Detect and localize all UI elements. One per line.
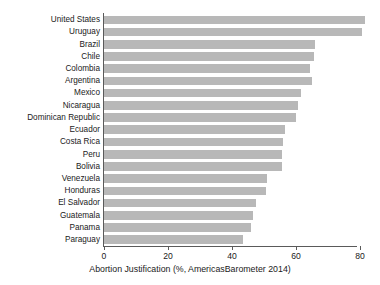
category-label: Bolivia	[76, 161, 100, 172]
bar-row: Panama	[104, 222, 360, 234]
category-label: Guatemala	[60, 210, 100, 221]
bar-row: Bolivia	[104, 161, 360, 173]
bar	[104, 162, 282, 171]
x-axis-tick	[232, 246, 233, 250]
bar	[104, 125, 285, 134]
bar	[104, 150, 282, 159]
category-label: Honduras	[64, 185, 100, 196]
bar-row: Paraguay	[104, 234, 360, 246]
category-label: Uruguay	[69, 26, 100, 37]
category-label: Nicaragua	[63, 100, 100, 111]
bar	[104, 101, 298, 110]
bar-chart: United StatesUruguayBrazilChileColombiaA…	[0, 0, 380, 285]
category-label: Brazil	[80, 39, 100, 50]
category-label: El Salvador	[58, 197, 100, 208]
bar-row: Honduras	[104, 185, 360, 197]
bar	[104, 138, 283, 147]
x-axis-tick	[104, 246, 105, 250]
bar	[104, 52, 314, 61]
x-axis-tick-label: 60	[276, 251, 316, 261]
x-axis-tick	[360, 246, 361, 250]
x-axis-tick-label: 20	[148, 251, 188, 261]
category-label: Dominican Republic	[27, 112, 100, 123]
category-label: Colombia	[65, 63, 100, 74]
bar-row: Argentina	[104, 75, 360, 87]
category-label: Mexico	[74, 87, 100, 98]
bar	[104, 223, 251, 232]
bar-row: United States	[104, 14, 360, 26]
x-axis-tick	[168, 246, 169, 250]
x-axis-tick	[296, 246, 297, 250]
bar	[104, 199, 256, 208]
bar	[104, 211, 253, 220]
category-label: Ecuador	[70, 124, 101, 135]
plot-area: United StatesUruguayBrazilChileColombiaA…	[104, 14, 360, 246]
category-label: Venezuela	[62, 173, 100, 184]
category-label: Panama	[70, 222, 101, 233]
bar-row: Nicaragua	[104, 99, 360, 111]
category-label: Chile	[81, 51, 100, 62]
x-axis-tick-label: 0	[84, 251, 124, 261]
bar-row: Chile	[104, 51, 360, 63]
category-label: Argentina	[65, 75, 100, 86]
category-label: Paraguay	[65, 234, 100, 245]
bar	[104, 64, 310, 73]
bar	[104, 174, 267, 183]
bar	[104, 77, 312, 86]
bar-row: Uruguay	[104, 26, 360, 38]
bar	[104, 40, 315, 49]
bar	[104, 235, 243, 244]
category-label: United States	[51, 14, 100, 25]
bar-row: Guatemala	[104, 209, 360, 221]
bar-row: Colombia	[104, 63, 360, 75]
bar-row: Dominican Republic	[104, 112, 360, 124]
bar-row: Ecuador	[104, 124, 360, 136]
bar-row: Peru	[104, 148, 360, 160]
bar-row: Venezuela	[104, 173, 360, 185]
bar-row: Mexico	[104, 87, 360, 99]
category-label: Peru	[83, 149, 100, 160]
bar-row: Costa Rica	[104, 136, 360, 148]
bar	[104, 16, 365, 25]
bar	[104, 187, 266, 196]
x-axis-line	[103, 246, 357, 247]
x-axis-tick-label: 40	[212, 251, 252, 261]
bar	[104, 28, 362, 37]
bar	[104, 113, 296, 122]
x-axis-title: Abortion Justification (%, AmericasBarom…	[0, 264, 380, 274]
bar-row: El Salvador	[104, 197, 360, 209]
x-axis-tick-label: 80	[340, 251, 380, 261]
bar-row: Brazil	[104, 38, 360, 50]
bar	[104, 89, 301, 98]
category-label: Costa Rica	[60, 136, 100, 147]
